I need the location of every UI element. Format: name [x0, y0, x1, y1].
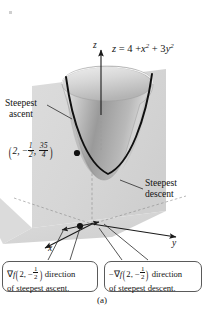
point-z-denominator: 4 [39, 151, 48, 159]
steepest-ascent-line2: ascent [9, 108, 33, 119]
steepest-ascent-line1: Steepest [5, 97, 37, 108]
point-y-sign: − [22, 145, 27, 156]
equation-x-exponent: 2 [146, 42, 149, 49]
ascent-arg-y-denominator: 2 [33, 273, 38, 280]
surface-equation: z = 4 +x2 + 3y2 [112, 43, 174, 55]
point-x-value: 2, [13, 145, 20, 156]
descent-second-line: of steepest descent. [109, 283, 198, 294]
equation-y-exponent: 2 [170, 42, 173, 49]
descent-tail-text: direction [152, 269, 183, 279]
descent-arg-y-numerator: 1 [140, 265, 145, 273]
ascent-second-line: of steepest ascent. [7, 283, 94, 294]
descent-open-paren: ( [123, 268, 126, 283]
caption-box-steepest-descent: −∇f(2, −12) direction of steepest descen… [104, 261, 202, 292]
x-axis-label: x [48, 243, 52, 254]
ascent-tail-text: direction [45, 269, 76, 279]
point-close-paren: ) [50, 145, 53, 160]
y-axis-label: y [172, 238, 176, 249]
surface-point-marker [74, 150, 80, 156]
ascent-arg-x: 2, [19, 269, 25, 279]
point-coordinate-label: (2, −12, 354) [8, 142, 53, 160]
ascent-arg-y-numerator: 1 [33, 265, 38, 273]
steepest-descent-line2: descent [145, 188, 174, 199]
steepest-descent-callout: Steepest descent [145, 178, 177, 199]
ascent-close-paren: ) [39, 268, 42, 283]
caption-box-steepest-ascent: ∇f(2, −12) direction of steepest ascent. [2, 261, 98, 292]
point-comma: , [34, 145, 36, 156]
descent-arg-y-fraction: 12 [140, 265, 145, 281]
figure-gradient-steepest-ascent: z = 4 +x2 + 3y2 z x y Steepest ascent St… [0, 0, 204, 310]
descent-arg-y-denominator: 2 [140, 273, 145, 280]
equation-constant: 4 + [127, 43, 141, 54]
descent-close-paren: ) [146, 268, 149, 283]
equation-y-coefficient: + 3 [152, 43, 166, 54]
point-y-denominator: 2 [28, 151, 34, 159]
descent-arg-y-sign: − [135, 269, 140, 279]
point-open-paren: ( [9, 145, 12, 160]
ascent-arg-y-fraction: 12 [33, 265, 38, 281]
z-axis-label: z [93, 40, 97, 51]
ascent-arg-y-sign: − [28, 269, 33, 279]
steepest-ascent-callout: Steepest ascent [5, 98, 37, 119]
equation-lhs: z [112, 43, 116, 54]
point-y-fraction: 12 [28, 142, 34, 160]
point-z-fraction: 354 [39, 142, 48, 160]
figure-part-label: (a) [0, 295, 204, 305]
descent-arg-x: 2, [126, 269, 132, 279]
steepest-descent-line1: Steepest [145, 177, 177, 188]
equation-equals: = [119, 43, 125, 54]
